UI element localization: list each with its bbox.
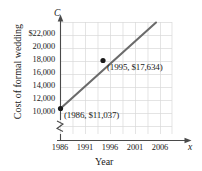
wedding-cost-line-chart: C x $22,000 20,000 18,000 16,000 14,000 … xyxy=(0,0,202,171)
y-tick-label-12000: 12,000 xyxy=(17,95,55,103)
y-tick-label-22000: $22,000 xyxy=(17,30,55,38)
y-tick-label-20000: 20,000 xyxy=(17,43,55,51)
y-tick-label-14000: 14,000 xyxy=(17,82,55,90)
y-tick-label-16000: 16,000 xyxy=(17,69,55,77)
y-axis-variable-label: C xyxy=(54,9,60,19)
x-tick-label-2006: 2006 xyxy=(145,144,175,152)
annotation-1986: (1986, $11,037) xyxy=(64,111,119,120)
data-point-1995 xyxy=(100,58,105,63)
data-point-1986 xyxy=(58,106,63,111)
y-tick-label-10000: 10,000 xyxy=(17,108,55,116)
x-axis-variable-label: x xyxy=(188,143,192,153)
annotation-1995: (1995, $17,634) xyxy=(107,63,163,72)
y-axis-title: Cost of formal wedding xyxy=(12,12,23,132)
x-axis-title: Year xyxy=(95,157,113,167)
y-tick-label-18000: 18,000 xyxy=(17,56,55,64)
